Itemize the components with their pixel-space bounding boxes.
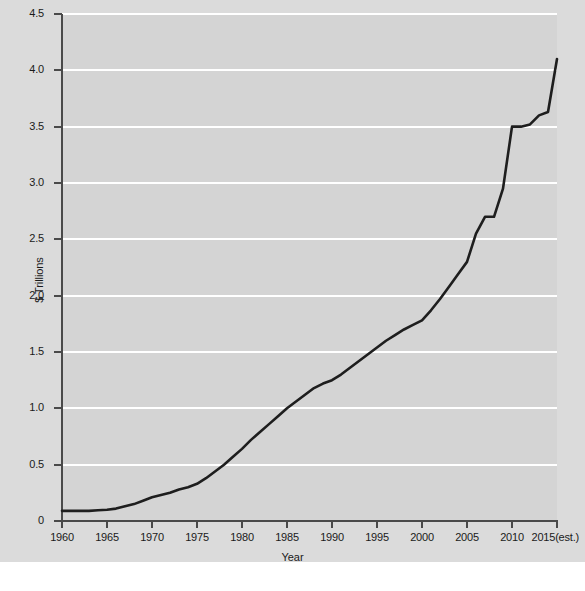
y-axis-tick — [54, 13, 62, 15]
x-axis-tick — [331, 521, 333, 528]
x-axis-tick-label: 1970 — [127, 531, 177, 543]
x-axis-tick — [61, 521, 63, 528]
y-axis-tick-label: 0.5 — [14, 458, 44, 470]
x-axis-tick — [466, 521, 468, 528]
gridline — [62, 238, 557, 240]
x-axis-tick-label: 2015(est.) — [509, 531, 579, 543]
x-axis-tick — [106, 521, 108, 528]
y-axis-tick-label: 2.0 — [14, 289, 44, 301]
x-axis-tick-label: 1995 — [352, 531, 402, 543]
y-axis-tick — [54, 238, 62, 240]
y-axis-tick — [54, 464, 62, 466]
x-axis-tick — [241, 521, 243, 528]
gridline — [62, 182, 557, 184]
figure-root: $ Trillions Year 00.51.01.52.02.53.03.54… — [0, 0, 585, 591]
y-axis-tick-label: 3.5 — [14, 120, 44, 132]
y-axis-tick — [54, 69, 62, 71]
y-axis-tick-label: 4.5 — [14, 7, 44, 19]
plot-area — [62, 14, 557, 521]
x-axis-tick-label: 1985 — [262, 531, 312, 543]
figure-caption: FIGURE FEDERAL SPENDING — [0, 562, 585, 591]
x-axis-tick — [286, 521, 288, 528]
x-axis-tick — [376, 521, 378, 528]
y-axis-tick-label: 0 — [14, 514, 44, 526]
y-axis-tick-label: 3.0 — [14, 176, 44, 188]
y-axis-tick — [54, 182, 62, 184]
x-axis-tick-label: 2000 — [397, 531, 447, 543]
x-axis-tick — [196, 521, 198, 528]
x-axis-tick-label: 1980 — [217, 531, 267, 543]
y-axis-tick — [54, 407, 62, 409]
gridline — [62, 464, 557, 466]
x-axis-line — [61, 520, 558, 522]
y-axis-tick-label: 2.5 — [14, 232, 44, 244]
gridline — [62, 13, 557, 15]
y-axis-tick — [54, 351, 62, 353]
x-axis-tick — [511, 521, 513, 528]
x-axis-tick-label: 2005 — [442, 531, 492, 543]
x-axis-tick-label: 1990 — [307, 531, 357, 543]
gridline — [62, 126, 557, 128]
x-axis-tick-label: 1965 — [82, 531, 132, 543]
gridline — [62, 407, 557, 409]
y-axis-line — [61, 14, 63, 522]
y-axis-tick — [54, 295, 62, 297]
y-axis-tick — [54, 126, 62, 128]
x-axis-tick-label: 1960 — [37, 531, 87, 543]
x-axis-tick — [151, 521, 153, 528]
gridline — [62, 295, 557, 297]
x-axis-tick — [421, 521, 423, 528]
x-axis-tick — [556, 521, 558, 528]
gridline — [62, 351, 557, 353]
y-axis-title: $ Trillions — [33, 235, 45, 325]
gridline — [62, 69, 557, 71]
chart-canvas: $ Trillions Year 00.51.01.52.02.53.03.54… — [0, 0, 585, 562]
y-axis-tick-label: 1.5 — [14, 345, 44, 357]
y-axis-tick-label: 4.0 — [14, 63, 44, 75]
x-axis-tick-label: 1975 — [172, 531, 222, 543]
y-axis-tick-label: 1.0 — [14, 401, 44, 413]
